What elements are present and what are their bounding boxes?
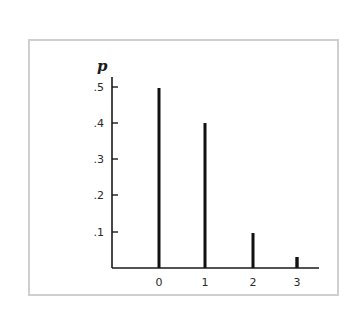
- bars: [159, 88, 297, 268]
- x-tick-label: 3: [294, 276, 301, 289]
- y-axis-title: p: [97, 57, 108, 75]
- y-tick-label: .1: [94, 226, 105, 239]
- y-tick-label: .5: [94, 81, 105, 94]
- y-ticks: .1 .2 .3 .4 .5: [94, 81, 119, 239]
- x-tick-label: 2: [250, 276, 257, 289]
- y-tick-label: .3: [94, 153, 105, 166]
- x-ticks: 0 1 2 3: [156, 276, 301, 289]
- x-tick-label: 0: [156, 276, 163, 289]
- probability-chart: p .1 .2 .3 .4 .5 0 1 2 3: [0, 0, 356, 310]
- y-tick-label: .2: [94, 189, 105, 202]
- x-tick-label: 1: [202, 276, 209, 289]
- y-tick-label: .4: [94, 117, 105, 130]
